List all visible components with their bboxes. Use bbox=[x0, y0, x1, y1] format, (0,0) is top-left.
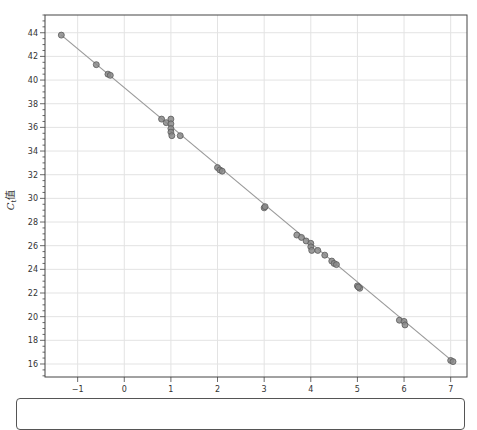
data-point bbox=[309, 247, 315, 253]
x-tick-label: 5 bbox=[355, 385, 360, 394]
y-tick-label: 18 bbox=[28, 336, 38, 345]
data-point bbox=[355, 284, 361, 290]
x-tick-label: 0 bbox=[122, 385, 127, 394]
data-point bbox=[107, 72, 113, 78]
y-tick-label: 30 bbox=[28, 194, 38, 203]
y-tick-label: 42 bbox=[28, 52, 38, 61]
y-axis-title: Ct值 bbox=[4, 190, 18, 210]
y-tick-label: 34 bbox=[28, 147, 38, 156]
y-tick-label: 36 bbox=[28, 123, 38, 132]
y-tick-label: 44 bbox=[28, 29, 38, 38]
x-tick-label: 7 bbox=[448, 385, 453, 394]
y-tick-label: 40 bbox=[28, 76, 38, 85]
x-tick-label: −1 bbox=[72, 385, 84, 394]
y-tick-label: 26 bbox=[28, 242, 38, 251]
y-tick-label: 28 bbox=[28, 218, 38, 227]
data-point bbox=[262, 204, 268, 210]
x-tick-label: 6 bbox=[402, 385, 407, 394]
x-tick-label: 4 bbox=[308, 385, 313, 394]
data-point bbox=[93, 62, 99, 68]
x-tick-label: 3 bbox=[262, 385, 267, 394]
y-tick-label: 24 bbox=[28, 265, 38, 274]
data-point bbox=[219, 168, 225, 174]
data-point bbox=[333, 262, 339, 268]
data-point bbox=[322, 252, 328, 258]
y-axis: 161820222426283032343638404244 bbox=[28, 15, 45, 376]
data-point bbox=[315, 247, 321, 253]
data-point bbox=[450, 359, 456, 365]
x-axis: −101234567 bbox=[72, 377, 453, 394]
y-tick-label: 32 bbox=[28, 171, 38, 180]
x-tick-label: 2 bbox=[215, 385, 220, 394]
data-point bbox=[169, 133, 175, 139]
y-tick-label: 38 bbox=[28, 100, 38, 109]
x-tick-label: 1 bbox=[168, 385, 173, 394]
data-point bbox=[402, 322, 408, 328]
caption-box bbox=[16, 398, 465, 430]
data-point bbox=[58, 32, 64, 38]
y-tick-label: 22 bbox=[28, 289, 38, 298]
y-tick-label: 16 bbox=[28, 360, 38, 369]
y-tick-label: 20 bbox=[28, 313, 38, 322]
data-point bbox=[177, 133, 183, 139]
